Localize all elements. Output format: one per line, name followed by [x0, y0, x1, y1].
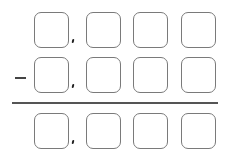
difference-digit-box-3[interactable]: [133, 113, 168, 149]
minuend-digit-box-4[interactable]: [181, 12, 216, 48]
subtrahend-digit-box-2[interactable]: [86, 57, 121, 93]
difference-digit-box-2[interactable]: [86, 113, 121, 149]
subtrahend-digit-box-1[interactable]: [34, 57, 69, 93]
sum-rule-line: [12, 102, 218, 104]
minus-sign: [15, 77, 26, 79]
difference-digit-box-1[interactable]: [34, 113, 69, 149]
minuend-digit-box-1[interactable]: [34, 12, 69, 48]
thousands-comma: [72, 39, 75, 43]
minuend-digit-box-3[interactable]: [133, 12, 168, 48]
thousands-comma: [72, 84, 75, 88]
difference-digit-box-4[interactable]: [181, 113, 216, 149]
minuend-digit-box-2[interactable]: [86, 12, 121, 48]
thousands-comma: [72, 140, 75, 144]
subtrahend-digit-box-3[interactable]: [133, 57, 168, 93]
subtrahend-digit-box-4[interactable]: [181, 57, 216, 93]
